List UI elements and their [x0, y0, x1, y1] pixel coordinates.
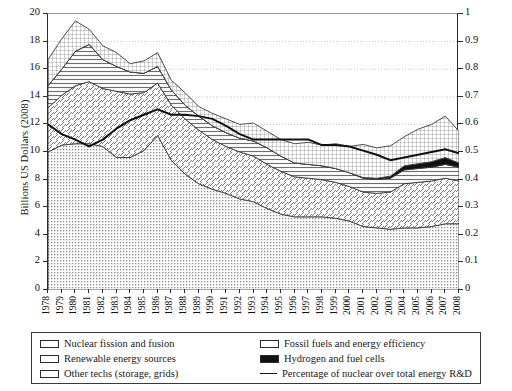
x-axis-tick-2001: 2001 [357, 296, 367, 315]
x-axis-tickmark [376, 289, 377, 293]
y-axis-left-tick: 16 [16, 61, 40, 72]
x-axis-tickmark [431, 289, 432, 293]
y-axis-left-tickmark [43, 96, 47, 97]
x-axis-tickmark [129, 289, 130, 293]
x-axis-tickmark [403, 289, 404, 293]
x-axis-tickmark [253, 289, 254, 293]
x-axis-tickmark [225, 289, 226, 293]
y-axis-right-tickmark [458, 96, 463, 97]
y-axis-left-tick: 10 [16, 144, 40, 155]
x-axis-tick-1992: 1992 [234, 296, 244, 315]
y-axis-left-tickmark [43, 261, 47, 262]
y-axis-left-tick: 18 [16, 34, 40, 45]
legend-label: Nuclear fission and fusion [64, 338, 175, 349]
x-axis-tickmark [266, 289, 267, 293]
chart-figure: Billions US Dollars (2008) Percentage of… [0, 0, 512, 391]
x-axis-tick-2006: 2006 [426, 296, 436, 315]
x-axis-tick-1995: 1995 [275, 296, 285, 315]
x-axis-tickmark [280, 289, 281, 293]
x-axis-tick-1983: 1983 [111, 296, 121, 315]
chart-legend: Nuclear fission and fusionRenewable ener… [31, 332, 481, 384]
x-axis-tickmark [116, 289, 117, 293]
x-axis-tick-1984: 1984 [124, 296, 134, 315]
y-axis-left-tickmark [43, 206, 47, 207]
y-axis-right-tick: 0.5 [465, 144, 491, 155]
x-axis-tick-1978: 1978 [42, 296, 52, 315]
y-axis-left-tickmark [43, 68, 47, 69]
y-axis-right-tick: 0.6 [465, 116, 491, 127]
x-axis-tickmark [198, 289, 199, 293]
x-axis-tickmark [102, 289, 103, 293]
y-axis-right-tickmark [458, 68, 463, 69]
y-axis-left-tickmark [43, 234, 47, 235]
legend-swatch-grid-crosshatch-icon [260, 340, 279, 348]
y-axis-right-tick: 0.1 [465, 254, 491, 265]
y-axis-right-tick: 0.8 [465, 61, 491, 72]
x-axis-tickmark [458, 289, 459, 293]
x-axis-tickmark [184, 289, 185, 293]
y-axis-left-tickmark [43, 41, 47, 42]
y-axis-left-tickmark [43, 151, 47, 152]
x-axis-tickmark [143, 289, 144, 293]
y-axis-right-tick: 0.4 [465, 172, 491, 183]
x-axis-tickmark [390, 289, 391, 293]
y-axis-right-tickmark [458, 13, 463, 14]
legend-label: Renewable energy sources [64, 353, 176, 364]
x-axis-tick-1999: 1999 [330, 296, 340, 315]
y-axis-right-tickmark [458, 261, 463, 262]
x-axis-tick-1993: 1993 [248, 296, 258, 315]
x-axis-tick-2004: 2004 [398, 296, 408, 315]
x-axis-tickmark [307, 289, 308, 293]
chart-canvas [48, 14, 459, 290]
x-axis-tick-1998: 1998 [316, 296, 326, 315]
x-axis-tickmark [417, 289, 418, 293]
y-axis-left-tick: 8 [16, 172, 40, 183]
y-axis-left-tick: 12 [16, 116, 40, 127]
y-axis-right-tickmark [458, 179, 463, 180]
y-axis-left-tick: 20 [16, 6, 40, 17]
legend-item: Renewable energy sources [40, 353, 176, 364]
y-axis-left-tick: 0 [16, 282, 40, 293]
x-axis-tickmark [335, 289, 336, 293]
y-axis-right-tickmark [458, 41, 463, 42]
y-axis-left-title: Billions US Dollars (2008) [19, 78, 30, 238]
x-axis-tickmark [444, 289, 445, 293]
x-axis-tick-1979: 1979 [56, 296, 66, 315]
x-axis-tick-1980: 1980 [69, 296, 79, 315]
stacked-areas [48, 21, 459, 290]
legend-swatch-line-icon [260, 373, 277, 374]
x-axis-tick-2000: 2000 [343, 296, 353, 315]
x-axis-tickmark [88, 289, 89, 293]
y-axis-left-tickmark [43, 179, 47, 180]
x-axis-tick-2007: 2007 [439, 296, 449, 315]
x-axis-tick-1986: 1986 [152, 296, 162, 315]
legend-label: Other techs (storage, grids) [64, 368, 178, 379]
legend-swatch-horizontal-lines-icon [40, 355, 59, 363]
x-axis-tickmark [362, 289, 363, 293]
legend-swatch-solid-black-icon [260, 355, 279, 363]
x-axis-tick-1990: 1990 [206, 296, 216, 315]
legend-swatch-dotted-icon [40, 370, 59, 378]
y-axis-right-tick: 0.9 [465, 34, 491, 45]
legend-item: Hydrogen and fuel cells [260, 353, 385, 364]
x-axis-tick-1988: 1988 [179, 296, 189, 315]
y-axis-left-tickmark [43, 123, 47, 124]
y-axis-right-tickmark [458, 234, 463, 235]
legend-label: Hydrogen and fuel cells [284, 353, 385, 364]
legend-item: Fossil fuels and energy efficiency [260, 338, 425, 349]
x-axis-tickmark [348, 289, 349, 293]
plot-area [47, 13, 458, 289]
x-axis-tickmark [239, 289, 240, 293]
y-axis-right-tick: 0.3 [465, 199, 491, 210]
y-axis-right-tick: 1 [465, 6, 491, 17]
x-axis-tickmark [294, 289, 295, 293]
y-axis-right-tick: 0 [465, 282, 491, 293]
x-axis-tick-1994: 1994 [261, 296, 271, 315]
x-axis-tick-2005: 2005 [412, 296, 422, 315]
y-axis-left-tick: 2 [16, 254, 40, 265]
x-axis-tick-1989: 1989 [193, 296, 203, 315]
x-axis-tick-2003: 2003 [385, 296, 395, 315]
y-axis-left-tick: 14 [16, 89, 40, 100]
x-axis-tickmark [170, 289, 171, 293]
x-axis-tickmark [157, 289, 158, 293]
